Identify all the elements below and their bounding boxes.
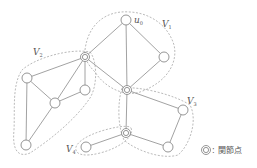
node[interactable] xyxy=(21,140,31,150)
label-v4: V4 xyxy=(66,144,76,155)
node[interactable] xyxy=(159,52,169,62)
labels: u0 V1 V2 V3 V4 xyxy=(33,15,197,155)
label-v2: V2 xyxy=(33,47,43,58)
articulation-point-icon xyxy=(202,146,211,155)
label-v3: V3 xyxy=(187,96,197,107)
articulation-node[interactable] xyxy=(123,86,132,95)
articulation-node[interactable] xyxy=(122,129,131,138)
edges xyxy=(26,20,183,147)
legend: : 関節点 xyxy=(202,145,243,155)
legend-separator: : xyxy=(212,146,215,155)
node-u0[interactable] xyxy=(121,15,131,25)
node[interactable] xyxy=(22,73,32,83)
graph-diagram: u0 V1 V2 V3 V4 : 関節点 xyxy=(0,0,257,168)
node[interactable] xyxy=(81,142,91,152)
node[interactable] xyxy=(178,105,188,115)
node[interactable] xyxy=(163,142,173,152)
legend-label: 関節点 xyxy=(218,145,242,155)
component-hulls xyxy=(14,12,194,157)
nodes xyxy=(21,15,188,152)
hull-v3 xyxy=(119,88,193,157)
label-u0: u0 xyxy=(134,15,143,26)
articulation-node[interactable] xyxy=(81,53,90,62)
node[interactable] xyxy=(80,85,90,95)
label-v1: V1 xyxy=(162,19,172,30)
node[interactable] xyxy=(50,98,60,108)
